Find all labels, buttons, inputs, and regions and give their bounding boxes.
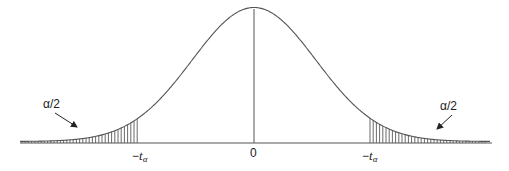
center-label: 0 [250, 146, 257, 160]
left-tail-label: α/2 [43, 97, 60, 111]
right-cutoff-label: −tα [362, 148, 378, 164]
two-tailed-distribution-diagram: α/2 α/2 0 −tα −tα [0, 0, 509, 171]
right-tail-label: α/2 [440, 99, 457, 113]
bell-curve [20, 8, 490, 142]
left-cutoff-label: −tα [132, 148, 148, 164]
left-tail-arrow [55, 113, 77, 127]
right-tail-arrow [437, 115, 452, 129]
